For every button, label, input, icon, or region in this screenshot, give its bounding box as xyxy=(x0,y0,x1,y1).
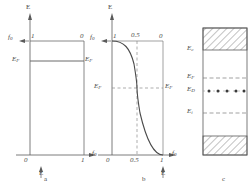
panel-c-level-label-conduction: Ec xyxy=(187,45,194,52)
panel-c-letter: c xyxy=(222,175,225,183)
panel-c-level-label-intrinsic: Ei xyxy=(187,108,193,115)
panel-c-level-label-fermi: EF xyxy=(187,73,194,80)
panel-c-graphics xyxy=(0,0,251,191)
panel-c-level-label-donor: ED xyxy=(187,86,195,93)
figure-container: E f0 1 0 EF EF 0 1 f0 E a E f0 1 0.5 0 E… xyxy=(0,0,251,191)
